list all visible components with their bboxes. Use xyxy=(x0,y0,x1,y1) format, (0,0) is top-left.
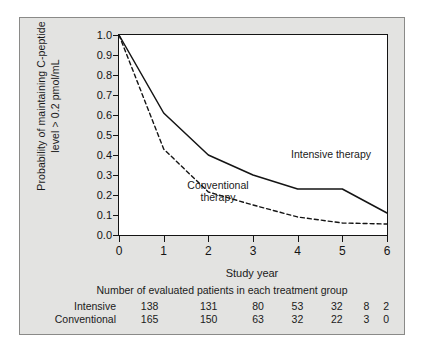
risk-cell: 3 xyxy=(357,313,377,326)
y-tick-label-0.0: 0.0 xyxy=(97,229,112,241)
y-axis-title-line2: level > 0.2 pmol/mL xyxy=(48,16,62,196)
y-axis-title: Probability of maintaining C-peptide lev… xyxy=(34,16,62,196)
risk-cell: 165 xyxy=(120,313,179,326)
risk-table-caption: Number of evaluated patients in each tre… xyxy=(48,284,396,296)
x-tick-0 xyxy=(119,235,120,242)
x-axis-title: Study year xyxy=(118,267,386,279)
x-tick-label-0: 0 xyxy=(116,244,123,258)
risk-cell: 63 xyxy=(238,313,277,326)
y-tick-label-0.1: 0.1 xyxy=(97,209,112,221)
conventional-therapy-label-line1: Conventional xyxy=(187,179,248,191)
y-tick-label-0.2: 0.2 xyxy=(97,189,112,201)
y-tick-label-0.3: 0.3 xyxy=(97,169,112,181)
risk-cell: 2 xyxy=(376,300,396,313)
risk-row-label: Conventional xyxy=(30,313,120,326)
y-tick-label-1.0: 1.0 xyxy=(97,29,112,41)
x-tick-label-4: 4 xyxy=(294,244,301,258)
x-tick-label-5: 5 xyxy=(339,244,346,258)
y-tick-label-0.5: 0.5 xyxy=(97,129,112,141)
risk-cell: 0 xyxy=(376,313,396,326)
x-tick-6 xyxy=(387,235,388,242)
risk-cell: 8 xyxy=(357,300,377,313)
x-tick-label-1: 1 xyxy=(160,244,167,258)
x-tick-3 xyxy=(253,235,254,242)
risk-cell: 32 xyxy=(278,313,317,326)
x-tick-4 xyxy=(298,235,299,242)
plot-area: 1.0 0.9 0.8 0.7 0.6 0.5 0.4 0.3 0.2 0.1 … xyxy=(118,34,388,236)
figure-panel: Probability of maintaining C-peptide lev… xyxy=(19,17,405,335)
risk-table-grid: Intensive13813180533282Conventional16515… xyxy=(30,300,396,326)
x-tick-5 xyxy=(342,235,343,242)
risk-cell: 150 xyxy=(179,313,238,326)
x-tick-1 xyxy=(164,235,165,242)
numbers-at-risk-table: Number of evaluated patients in each tre… xyxy=(30,284,396,326)
risk-cell: 32 xyxy=(317,300,356,313)
y-tick-label-0.6: 0.6 xyxy=(97,109,112,121)
risk-row-label: Intensive xyxy=(30,300,120,313)
conventional-therapy-label: Conventional therapy xyxy=(176,179,260,203)
survival-curves xyxy=(119,35,387,235)
conventional-therapy-label-line2: therapy xyxy=(200,191,235,203)
y-tick-label-0.4: 0.4 xyxy=(97,149,112,161)
risk-cell: 131 xyxy=(179,300,238,313)
y-tick-label-0.9: 0.9 xyxy=(97,49,112,61)
x-tick-label-3: 3 xyxy=(250,244,257,258)
y-tick-label-0.8: 0.8 xyxy=(97,69,112,81)
risk-cell: 80 xyxy=(238,300,277,313)
y-tick-label-0.7: 0.7 xyxy=(97,89,112,101)
intensive-therapy-label: Intensive therapy xyxy=(291,148,371,160)
table-row: Intensive13813180533282 xyxy=(30,300,396,313)
risk-cell: 22 xyxy=(317,313,356,326)
x-tick-label-2: 2 xyxy=(205,244,212,258)
risk-cell: 138 xyxy=(120,300,179,313)
x-tick-label-6: 6 xyxy=(384,244,391,258)
table-row: Conventional16515063322230 xyxy=(30,313,396,326)
risk-cell: 53 xyxy=(278,300,317,313)
x-tick-2 xyxy=(208,235,209,242)
y-axis-title-line1: Probability of maintaining C-peptide xyxy=(35,21,47,190)
